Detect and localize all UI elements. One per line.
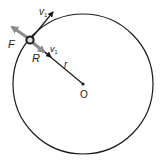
label-force: F bbox=[8, 38, 16, 50]
force-arrow bbox=[12, 27, 28, 38]
label-reaction: R bbox=[32, 52, 40, 64]
particle bbox=[26, 36, 33, 43]
label-v1-radial: v1 bbox=[50, 44, 58, 55]
label-center: O bbox=[80, 89, 88, 100]
reaction-arrow bbox=[32, 42, 44, 52]
label-v1-top: v1 bbox=[39, 6, 48, 18]
label-radius: r bbox=[64, 59, 68, 70]
circular-motion-diagram: v1 F R v1 r O bbox=[0, 0, 165, 163]
center-point bbox=[81, 82, 84, 85]
